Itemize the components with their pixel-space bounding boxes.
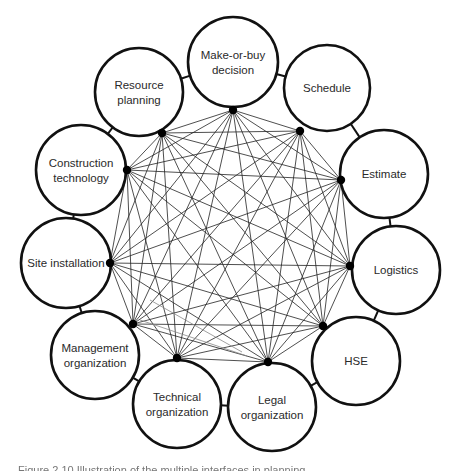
interface-line <box>133 180 341 324</box>
interface-line <box>268 131 300 362</box>
node-label: planning <box>117 94 160 106</box>
junction-dot-icon <box>173 354 181 362</box>
junction-dot-icon <box>264 358 272 366</box>
junction-dot-icon <box>123 166 131 174</box>
node-label: Technical <box>153 391 201 403</box>
junction-dot-icon <box>346 262 354 270</box>
node-label: organization <box>64 357 127 369</box>
junction-dot-icon <box>229 106 237 114</box>
interface-line <box>127 133 162 170</box>
ring-connector <box>350 123 360 138</box>
node-logistics: Logistics <box>352 226 440 314</box>
node-label: organization <box>241 409 304 421</box>
node-make-or-buy: Make-or-buydecision <box>188 17 278 107</box>
interface-line <box>127 170 268 362</box>
interface-network-diagram: Make-or-buydecisionScheduleEstimateLogis… <box>0 0 461 471</box>
node-circle <box>133 360 221 448</box>
interface-line <box>110 180 341 263</box>
node-site-installation: Site installation <box>21 218 111 308</box>
interface-line <box>110 263 350 266</box>
node-label: Legal <box>258 394 286 406</box>
node-label: Make-or-buy <box>201 49 266 61</box>
interface-line <box>300 131 323 326</box>
node-management-organization: Managementorganization <box>51 311 139 399</box>
figure-caption: Figure 2.10 Illustration of the multiple… <box>18 463 448 471</box>
node-resource-planning: Resourceplanning <box>95 48 183 136</box>
node-schedule: Schedule <box>284 45 370 131</box>
node-label: Estimate <box>362 168 407 180</box>
interface-line <box>177 110 233 358</box>
node-circle <box>188 17 278 107</box>
interface-line <box>110 263 323 326</box>
interface-line <box>127 170 323 326</box>
node-circle <box>228 363 316 451</box>
node-label: Logistics <box>374 264 419 276</box>
interface-line <box>233 110 300 131</box>
interface-line <box>110 131 300 263</box>
interface-line <box>300 131 341 180</box>
node-circle <box>36 125 126 215</box>
junction-dot-icon <box>158 129 166 137</box>
node-legal-organization: Legalorganization <box>228 363 316 451</box>
node-label: Management <box>61 342 129 354</box>
node-hse: HSE <box>312 317 400 405</box>
node-label: decision <box>212 64 254 76</box>
node-technical-organization: Technicalorganization <box>133 360 221 448</box>
node-label: HSE <box>344 355 368 367</box>
node-label: Construction <box>49 157 114 169</box>
interface-line <box>133 324 268 362</box>
junction-dot-icon <box>106 259 114 267</box>
planning-nodes: Make-or-buydecisionScheduleEstimateLogis… <box>21 17 440 451</box>
interface-line <box>300 131 350 266</box>
interface-lines <box>110 110 350 362</box>
interface-line <box>127 170 350 266</box>
node-label: Site installation <box>27 257 104 269</box>
junction-dot-icon <box>129 320 137 328</box>
node-estimate: Estimate <box>340 130 428 218</box>
interface-line <box>162 131 300 133</box>
interface-line <box>177 326 323 358</box>
junction-dot-icon <box>319 322 327 330</box>
node-label: organization <box>146 406 209 418</box>
junction-dot-icon <box>296 127 304 135</box>
junction-dot-icon <box>337 176 345 184</box>
node-construction-technology: Constructiontechnology <box>36 125 126 215</box>
node-label: technology <box>53 172 109 184</box>
node-circle <box>51 311 139 399</box>
node-label: Schedule <box>303 82 351 94</box>
node-label: Resource <box>114 79 163 91</box>
interface-line <box>127 170 133 324</box>
interface-line <box>133 324 323 326</box>
interface-line <box>133 110 233 324</box>
node-circle <box>95 48 183 136</box>
